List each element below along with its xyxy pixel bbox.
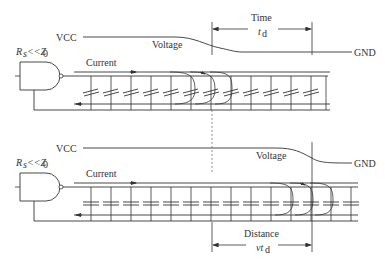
bottom-driver-gate-icon [15, 173, 63, 221]
time-value-t: t [258, 26, 261, 37]
diagram-canvas: VCC GND Voltage Current Time t d R s <<Z… [0, 0, 385, 266]
bottom-source-impedance-label: R s <<Z 0 [15, 157, 48, 170]
top-driver-gate-icon [15, 62, 63, 110]
svg-text:R: R [15, 46, 22, 57]
time-label: Time [251, 12, 272, 23]
top-vcc-label: VCC [56, 32, 77, 43]
top-current-label: Current [86, 57, 117, 68]
top-source-impedance-label: R s <<Z 0 [15, 46, 48, 59]
bottom-voltage-label: Voltage [256, 150, 287, 161]
transmission-line-diagram: VCC GND Voltage Current Time t d R s <<Z… [0, 0, 385, 266]
svg-text:0: 0 [43, 159, 48, 170]
top-voltage-curve [83, 37, 345, 52]
distance-value-sub: d [265, 244, 270, 255]
bottom-current-label: Current [86, 168, 117, 179]
distance-label: Distance [244, 228, 280, 239]
top-voltage-label: Voltage [152, 39, 183, 50]
bottom-panel: VCC GND Voltage Current Distance vt d R … [15, 142, 376, 255]
distance-value-vt: vt [256, 242, 263, 253]
bottom-gnd-label: GND [354, 158, 376, 169]
time-value-sub: d [262, 28, 267, 39]
top-gnd-label: GND [354, 47, 376, 58]
svg-text:R: R [15, 157, 22, 168]
bottom-vcc-label: VCC [56, 143, 77, 154]
svg-text:0: 0 [43, 48, 48, 59]
